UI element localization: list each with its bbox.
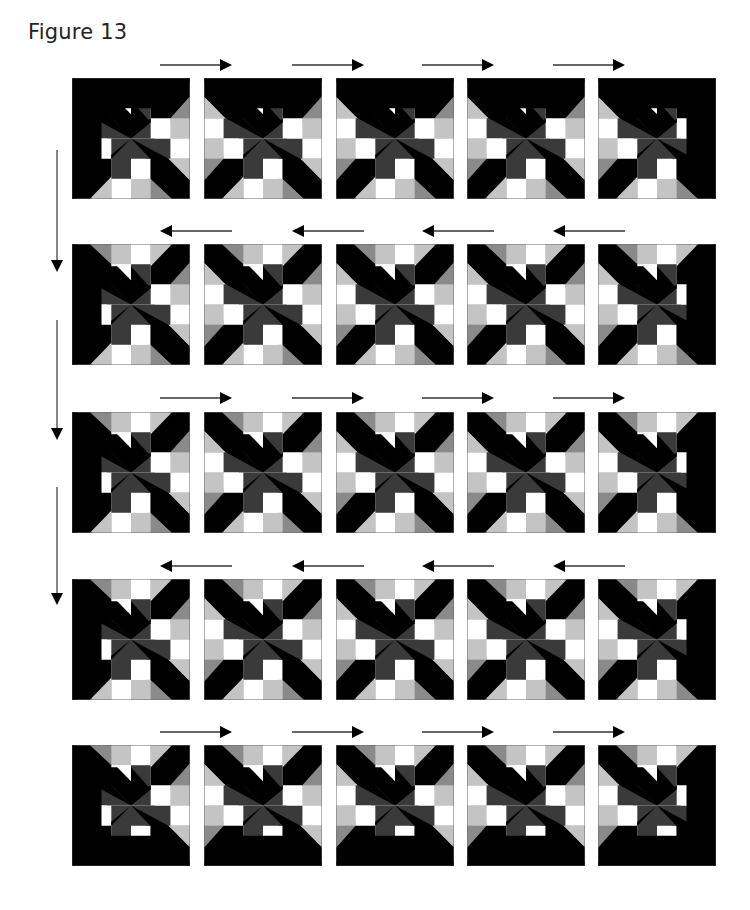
quilt-block-edge-top bbox=[204, 78, 322, 199]
quilt-block-edge-left bbox=[72, 412, 190, 533]
arrow-right-icon bbox=[553, 725, 625, 739]
arrow-right-icon bbox=[160, 391, 232, 405]
quilt-block-interior bbox=[336, 244, 454, 365]
arrow-right-icon bbox=[292, 58, 364, 72]
quilt-block-interior bbox=[467, 244, 585, 365]
quilt-block-interior bbox=[204, 579, 322, 700]
arrow-left-icon bbox=[292, 224, 364, 238]
quilt-block-edge-right bbox=[598, 244, 716, 365]
quilt-block-interior bbox=[467, 579, 585, 700]
quilt-block-interior bbox=[204, 244, 322, 365]
arrow-left-icon bbox=[553, 224, 625, 238]
quilt-block-edge-right bbox=[598, 412, 716, 533]
quilt-block-edge-left bbox=[72, 244, 190, 365]
arrow-right-icon bbox=[160, 58, 232, 72]
arrow-left-icon bbox=[160, 224, 232, 238]
arrow-right-icon bbox=[422, 391, 494, 405]
arrow-right-icon bbox=[422, 58, 494, 72]
arrow-left-icon bbox=[422, 224, 494, 238]
arrow-right-icon bbox=[553, 391, 625, 405]
figure-title: Figure 13 bbox=[28, 20, 127, 44]
quilt-block-corner-bottom-right bbox=[598, 745, 716, 866]
arrow-down-icon bbox=[50, 487, 64, 605]
quilt-block-interior bbox=[336, 412, 454, 533]
arrow-left-icon bbox=[160, 559, 232, 573]
quilt-block-edge-left bbox=[72, 579, 190, 700]
arrow-right-icon bbox=[292, 391, 364, 405]
arrow-right-icon bbox=[422, 725, 494, 739]
arrow-left-icon bbox=[553, 559, 625, 573]
quilt-block-edge-bottom bbox=[336, 745, 454, 866]
quilt-block-edge-top bbox=[467, 78, 585, 199]
arrow-right-icon bbox=[292, 725, 364, 739]
quilt-block-interior bbox=[336, 579, 454, 700]
arrow-right-icon bbox=[160, 725, 232, 739]
arrow-right-icon bbox=[553, 58, 625, 72]
quilt-block-interior bbox=[204, 412, 322, 533]
quilt-block-interior bbox=[467, 412, 585, 533]
arrow-down-icon bbox=[50, 150, 64, 272]
quilt-block-corner-bottom-left bbox=[72, 745, 190, 866]
quilt-block-edge-right bbox=[598, 579, 716, 700]
arrow-left-icon bbox=[422, 559, 494, 573]
quilt-block-corner-top-right bbox=[598, 78, 716, 199]
arrow-left-icon bbox=[292, 559, 364, 573]
quilt-block-corner-top-left bbox=[72, 78, 190, 199]
quilt-block-edge-bottom bbox=[204, 745, 322, 866]
arrow-down-icon bbox=[50, 320, 64, 440]
quilt-block-edge-top bbox=[336, 78, 454, 199]
quilt-block-edge-bottom bbox=[467, 745, 585, 866]
